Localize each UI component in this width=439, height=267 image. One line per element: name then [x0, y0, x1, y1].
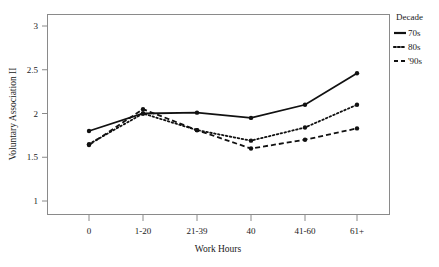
x-tick-label: 61+ [350, 226, 364, 236]
legend-title: Decade [396, 12, 423, 22]
x-tick-label: 1-20 [135, 226, 152, 236]
data-point [195, 128, 199, 132]
data-point [195, 110, 199, 114]
x-tick-label: 0 [87, 226, 92, 236]
y-axis-title: Voluntary Association II [8, 68, 18, 161]
data-point [249, 146, 253, 150]
y-tick-label: 1 [34, 196, 39, 206]
data-point [141, 107, 145, 111]
data-point [303, 138, 307, 142]
data-point [87, 143, 91, 147]
legend-item-label: 70s [408, 28, 421, 38]
y-tick-label: 3 [34, 21, 39, 31]
data-point [87, 129, 91, 133]
y-tick-label: 2 [34, 109, 39, 119]
x-tick-label: 40 [247, 226, 257, 236]
line-chart: 3 2.5 2 1.5 1 Voluntary Association II 0… [0, 0, 439, 267]
y-tick-label: 2.5 [27, 65, 39, 75]
data-point [355, 103, 359, 107]
data-point [355, 71, 359, 75]
chart-figure: 3 2.5 2 1.5 1 Voluntary Association II 0… [0, 0, 439, 267]
legend-item-label: 80s [408, 42, 421, 52]
chart-background [0, 0, 439, 267]
y-tick-label: 1.5 [27, 152, 39, 162]
data-point [249, 138, 253, 142]
data-point [141, 111, 145, 115]
x-tick-label: 21-39 [187, 226, 208, 236]
data-point [249, 116, 253, 120]
legend-item-label: '90s [408, 56, 423, 66]
data-point [303, 103, 307, 107]
data-point [303, 125, 307, 129]
x-tick-label: 41-60 [295, 226, 316, 236]
data-point [355, 126, 359, 130]
x-axis-title: Work Hours [195, 244, 242, 254]
